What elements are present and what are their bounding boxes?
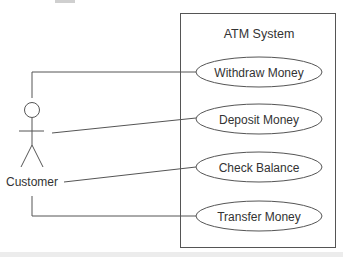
use-case-label: Check Balance	[219, 161, 300, 175]
bottom-band	[0, 252, 343, 257]
diagram-canvas: ATM System Customer Withdraw Money Depos…	[0, 0, 343, 257]
use-case-diagram: ATM System Customer Withdraw Money Depos…	[0, 0, 343, 257]
association-deposit	[52, 118, 196, 133]
use-case-withdraw-money: Withdraw Money	[196, 57, 322, 87]
actor-head-icon	[25, 103, 40, 118]
use-case-transfer-money: Transfer Money	[196, 201, 322, 231]
actor-right-leg	[32, 145, 43, 167]
system-label: ATM System	[224, 27, 295, 41]
use-case-label: Deposit Money	[219, 113, 299, 127]
association-withdraw	[32, 72, 196, 98]
actor-left-leg	[21, 145, 32, 167]
association-transfer	[32, 196, 197, 216]
use-case-check-balance: Check Balance	[196, 152, 322, 182]
use-case-label: Transfer Money	[217, 210, 301, 224]
use-case-label: Withdraw Money	[214, 66, 303, 80]
actor-customer	[19, 103, 44, 168]
actor-label: Customer	[6, 175, 58, 189]
association-check-balance	[64, 167, 196, 182]
cropped-title-fragment	[55, 0, 75, 3]
use-case-deposit-money: Deposit Money	[196, 104, 322, 134]
